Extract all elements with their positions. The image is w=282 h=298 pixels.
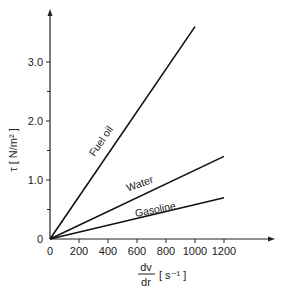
- y-tick-label: 2.0: [28, 115, 43, 127]
- series-label-gasoline: Gasoline: [134, 199, 177, 219]
- x-tick-label: 600: [128, 245, 146, 257]
- y-axis-label: τ [ N/m² ]: [7, 128, 19, 171]
- x-tick-label: 1000: [183, 245, 207, 257]
- x-tick-label: 1200: [212, 245, 236, 257]
- x-axis-label-numerator: dv: [140, 261, 152, 273]
- y-axis-arrow-icon: [48, 9, 53, 16]
- x-axis-label-unit: [ s⁻¹ ]: [159, 269, 186, 281]
- x-tick-label: 200: [70, 245, 88, 257]
- axes: 01.02.03.0020040060080010001200: [28, 9, 275, 257]
- x-axis-label-denominator: dr: [141, 276, 151, 288]
- series-line-water: [50, 156, 224, 239]
- y-tick-label: 3.0: [28, 56, 43, 68]
- chart: 01.02.03.0020040060080010001200 Fuel oil…: [0, 0, 282, 298]
- y-tick-label: 1.0: [28, 174, 43, 186]
- x-tick-label: 400: [99, 245, 117, 257]
- x-tick-label: 800: [157, 245, 175, 257]
- x-axis-arrow-icon: [268, 237, 275, 242]
- y-tick-label: 0: [37, 233, 43, 245]
- x-tick-label: 0: [47, 245, 53, 257]
- series-label-fuel-oil: Fuel oil: [86, 123, 115, 158]
- series-labels: Fuel oilWaterGasoline: [86, 123, 177, 219]
